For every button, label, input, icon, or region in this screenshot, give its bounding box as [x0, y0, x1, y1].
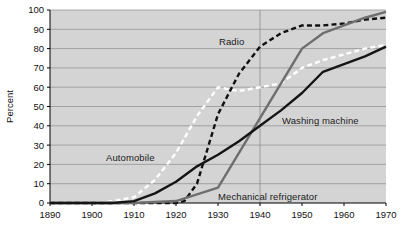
x-tick-label: 1960 [333, 209, 354, 220]
x-tick-label: 1920 [165, 209, 186, 220]
y-tick-label: 40 [33, 120, 44, 131]
x-tick-label: 1900 [81, 209, 102, 220]
series-label-washing-machine: Washing machine [282, 115, 359, 126]
x-tick-label: 1930 [207, 209, 228, 220]
series-label-radio: Radio [219, 36, 244, 47]
series-label-mechanical-refrigerator: Mechanical refrigerator [218, 191, 317, 202]
y-tick-label: 100 [28, 4, 44, 15]
y-tick-label: 60 [33, 82, 44, 93]
x-tick-label: 1910 [123, 209, 144, 220]
y-tick-label: 0 [39, 197, 44, 208]
x-tick-label: 1890 [39, 209, 60, 220]
x-tick-label: 1950 [291, 209, 312, 220]
y-tick-label: 90 [33, 24, 44, 35]
series-label-automobile: Automobile [106, 152, 155, 163]
y-tick-label: 50 [33, 101, 44, 112]
x-tick-label: 1970 [375, 209, 396, 220]
y-tick-label: 70 [33, 62, 44, 73]
y-tick-label: 20 [33, 159, 44, 170]
y-axis-title: Percent [4, 90, 15, 123]
x-tick-label: 1940 [249, 209, 270, 220]
y-tick-label: 30 [33, 140, 44, 151]
chart-container: 0102030405060708090100189019001910192019… [0, 0, 401, 236]
y-tick-label: 80 [33, 43, 44, 54]
y-tick-label: 10 [33, 178, 44, 189]
